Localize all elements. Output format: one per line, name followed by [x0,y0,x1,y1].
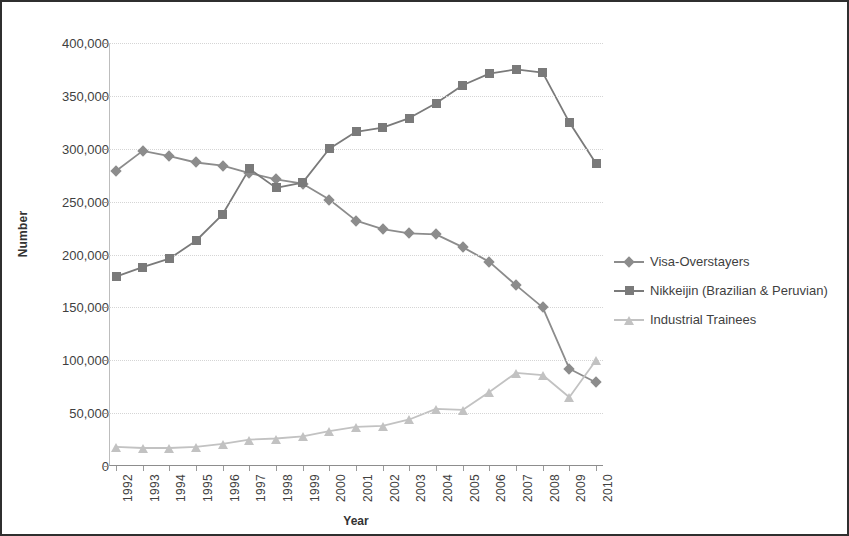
x-axis-tick-label: 2006 [494,474,508,502]
gridline [109,255,603,256]
data-point-marker [432,99,441,108]
x-axis-tick-mark [276,466,277,471]
x-axis-tick-mark [356,466,357,471]
x-axis-tick-mark [596,466,597,471]
data-point-marker [538,371,548,380]
x-axis-tick-label: 1995 [201,474,215,502]
y-axis-ticks: 050,000100,000150,000200,000250,000300,0… [2,2,109,507]
x-axis-tick-label: 2001 [361,474,375,502]
x-axis-tick-mark [169,466,170,471]
data-point-marker [218,210,227,219]
data-point-marker [564,393,574,402]
y-axis-tick-label: 350,000 [13,88,109,103]
data-point-marker [138,263,147,272]
data-point-marker [192,236,201,245]
y-axis-tick-label: 200,000 [13,247,109,262]
data-point-marker [538,68,547,77]
y-axis-tick-label: 300,000 [13,141,109,156]
data-point-marker [484,388,494,397]
gridline [109,202,603,203]
gridline [109,43,603,44]
data-point-marker [351,423,361,432]
y-axis-tick-label: 100,000 [13,353,109,368]
legend-marker-icon [625,286,634,295]
x-axis-tick-mark [436,466,437,471]
x-axis-tick-label: 1996 [228,474,242,502]
legend-swatch [614,284,644,298]
x-axis-tick-label: 1997 [254,474,268,502]
x-axis-tick-mark [463,466,464,471]
x-axis-tick-label: 2008 [548,474,562,502]
legend-swatch [614,313,644,327]
x-axis-tick-label: 2002 [388,474,402,502]
legend-marker-icon [623,256,634,267]
legend-swatch [614,255,644,269]
data-point-marker [352,127,361,136]
x-axis-tick-label: 1994 [174,474,188,502]
x-axis-tick-label: 2000 [334,474,348,502]
data-point-marker [138,444,148,453]
data-point-marker [378,422,388,431]
x-axis-tick-mark [143,466,144,471]
legend-label: Visa-Overstayers [650,254,749,269]
x-axis-tick-mark [303,466,304,471]
plot-area [109,43,603,466]
y-axis-tick-label: 0 [13,459,109,474]
x-axis-tick-mark [249,466,250,471]
data-point-marker [271,435,281,444]
data-point-marker [164,444,174,453]
data-point-marker [272,183,281,192]
x-axis-tick-mark [383,466,384,471]
data-point-marker [218,440,228,449]
legend-item[interactable]: Visa-Overstayers [614,247,846,276]
x-axis-title: Year [109,514,603,528]
data-point-marker [404,415,414,424]
y-axis-tick-label: 400,000 [13,36,109,51]
data-point-marker [431,405,441,414]
y-axis-tick-label: 250,000 [13,194,109,209]
legend-item[interactable]: Nikkeijin (Brazilian & Peruvian) [614,276,846,305]
x-axis-tick-mark [196,466,197,471]
data-point-marker [405,114,414,123]
data-point-marker [458,406,468,415]
gridline [109,96,603,97]
gridline [109,413,603,414]
x-axis-tick-mark [489,466,490,471]
x-axis-tick-label: 2010 [601,474,615,502]
x-axis-tick-label: 1999 [308,474,322,502]
data-point-marker [591,356,601,365]
data-point-marker [165,254,174,263]
x-axis-ticks: 1992199319941995199619971998199920002001… [109,466,603,514]
data-point-marker [485,69,494,78]
data-point-marker [325,144,334,153]
x-axis-tick-label: 2003 [414,474,428,502]
legend-label: Industrial Trainees [650,312,756,327]
x-axis-tick-mark [569,466,570,471]
x-axis-tick-label: 2004 [441,474,455,502]
x-axis-tick-label: 2005 [468,474,482,502]
x-axis-tick-mark [516,466,517,471]
data-point-marker [298,432,308,441]
x-axis-tick-mark [329,466,330,471]
data-point-marker [298,178,307,187]
data-point-marker [111,443,121,452]
y-axis-tick-label: 50,000 [13,406,109,421]
data-point-marker [511,369,521,378]
x-axis-tick-label: 1992 [121,474,135,502]
legend-item[interactable]: Industrial Trainees [614,305,846,334]
gridline [109,149,603,150]
x-axis-tick-mark [409,466,410,471]
gridline [109,307,603,308]
data-point-marker [565,118,574,127]
data-point-marker [191,443,201,452]
data-point-marker [378,123,387,132]
x-axis-tick-label: 1998 [281,474,295,502]
y-axis-tick-label: 150,000 [13,300,109,315]
data-point-marker [512,65,521,74]
data-point-marker [592,159,601,168]
x-axis-tick-label: 2009 [574,474,588,502]
x-axis-tick-label: 2007 [521,474,535,502]
data-point-marker [458,81,467,90]
legend-label: Nikkeijin (Brazilian & Peruvian) [650,283,828,298]
x-axis-tick-mark [116,466,117,471]
